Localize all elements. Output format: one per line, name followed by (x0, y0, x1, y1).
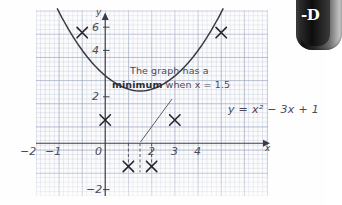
x-tick-label: −2 (20, 146, 36, 157)
point-cross (77, 27, 87, 37)
annotation-leader-line (141, 99, 173, 142)
y-tick-label: 4 (92, 45, 99, 56)
y-tick-label: 6 (92, 22, 99, 33)
y-tick-label: −2 (86, 184, 102, 195)
point-cross (216, 27, 226, 37)
page-edge-tab-label: -D (301, 6, 331, 24)
x-tick-label: 2 (148, 146, 155, 157)
y-axis-label: y (96, 8, 101, 17)
x-tick-label: 3 (171, 146, 178, 157)
y-axis-arrowhead (102, 13, 109, 21)
x-tick-label: −1 (45, 146, 61, 157)
x-tick-label: 4 (194, 146, 201, 157)
point-cross (146, 161, 156, 171)
x-axis-label: x (265, 144, 270, 153)
point-cross (123, 161, 133, 171)
annotation-line-1: The graph has a (130, 66, 209, 76)
point-cross (170, 115, 180, 125)
equation-label: y = x² − 3x + 1 (228, 104, 319, 115)
y-tick-label: 2 (92, 91, 99, 102)
y-tick-marks (102, 27, 109, 189)
annotation-line-2: minimum when x = 1.5 (112, 80, 230, 90)
annotation-keyword: minimum (112, 79, 162, 90)
x-tick-label-origin: 0 (95, 146, 102, 157)
annotation-line-2-rest: when x = 1.5 (162, 79, 230, 90)
